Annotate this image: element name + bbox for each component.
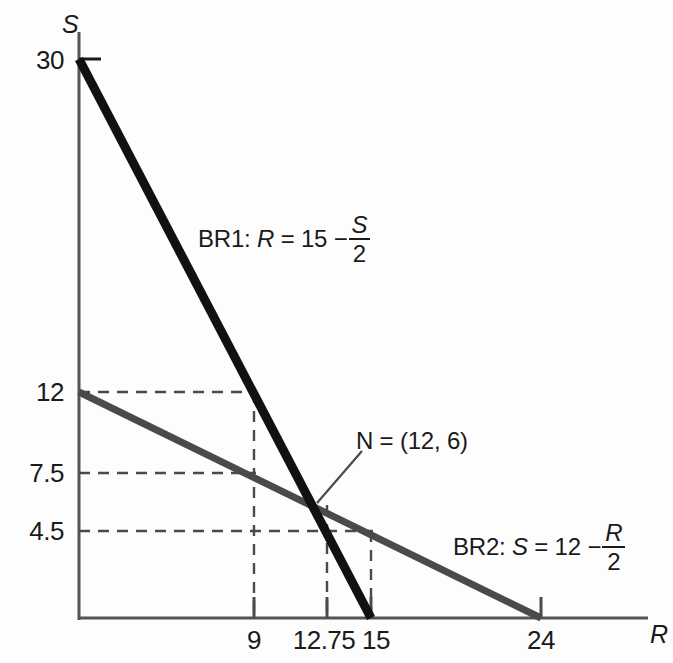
x-axis-label: R <box>650 622 668 647</box>
x-tick-label-24: 24 <box>527 627 555 653</box>
br1-minus: − <box>334 225 348 252</box>
br1-fraction-denominator: 2 <box>349 238 371 266</box>
br2-constant: 12 <box>555 533 581 560</box>
br2-fraction-denominator: 2 <box>602 546 625 574</box>
x-tick-label-15: 15 <box>362 627 390 653</box>
x-tick-label-12-75: 12.75 <box>293 627 356 653</box>
br1-constant: 15 <box>301 225 327 252</box>
y-tick-label-4-5: 4.5 <box>29 518 64 544</box>
best-response-diagram: S R 30 12 7.5 4.5 9 12.75 15 24 BR1: R =… <box>0 0 673 663</box>
curve-br1 <box>79 59 371 618</box>
y-tick-label-7-5: 7.5 <box>29 460 64 486</box>
br1-fraction: S2 <box>349 212 371 266</box>
y-axis-label: S <box>62 12 79 37</box>
br2-fraction-numerator: R <box>602 520 625 546</box>
curve-label-br2: BR2: S = 12 −R2 <box>453 521 626 575</box>
x-tick-label-9: 9 <box>247 627 261 653</box>
curve-label-br1: BR1: R = 15 −S2 <box>198 213 371 267</box>
br2-equals: = <box>534 533 548 560</box>
br1-equals: = <box>281 225 295 252</box>
br2-variable: S <box>512 533 528 560</box>
nash-leader-line <box>317 451 362 503</box>
y-tick-label-12: 12 <box>36 379 64 405</box>
br1-variable: R <box>257 225 274 252</box>
br2-fraction: R2 <box>602 520 625 574</box>
br2-prefix: BR2: <box>453 533 506 560</box>
br1-prefix: BR1: <box>198 225 251 252</box>
br2-minus: − <box>587 533 601 560</box>
y-tick-label-30: 30 <box>36 47 64 73</box>
nash-equilibrium-label: N = (12, 6) <box>356 429 468 453</box>
br1-fraction-numerator: S <box>349 212 371 238</box>
